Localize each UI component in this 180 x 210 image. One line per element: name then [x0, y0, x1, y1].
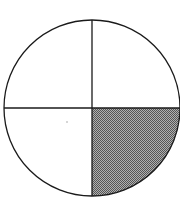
fraction-circle-diagram: [0, 0, 180, 210]
shaded-quadrant-bottom-right: [92, 108, 180, 196]
speck: [66, 121, 68, 123]
